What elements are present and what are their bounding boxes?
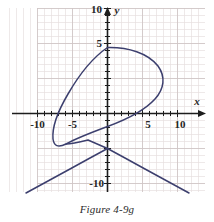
graph-plot-area: -10 -5 5 10 10 5 -10 x y <box>0 0 214 200</box>
x-tick-label-10: 10 <box>175 118 187 130</box>
y-axis <box>104 7 111 192</box>
coordinate-plane-svg: -10 -5 5 10 10 5 -10 x y <box>0 0 214 200</box>
x-axis-label: x <box>193 95 200 107</box>
major-gridlines <box>37 8 205 192</box>
y-tick-label-neg10: -10 <box>89 177 104 189</box>
x-tick-label-5: 5 <box>145 118 151 130</box>
figure-container: -10 -5 5 10 10 5 -10 x y Figure 4-9g <box>0 0 214 222</box>
y-tick-label-5: 5 <box>97 37 103 49</box>
x-tick-label-neg5: -5 <box>68 118 78 130</box>
figure-caption: Figure 4-9g <box>0 203 214 215</box>
y-axis-label: y <box>113 4 120 16</box>
x-axis <box>12 110 206 117</box>
y-tick-label-10: 10 <box>91 3 103 15</box>
x-tick-label-neg10: -10 <box>30 118 45 130</box>
